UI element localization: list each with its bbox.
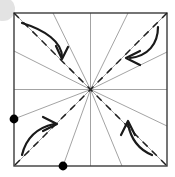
radial-crease-7 — [14, 51, 91, 90]
radial-crease-11 — [63, 90, 91, 167]
top-right-fold-arrow — [126, 27, 158, 65]
fold-diagram-svg — [0, 0, 175, 177]
radial-crease-13 — [91, 90, 123, 167]
bottom-right-fold-arrow — [121, 121, 152, 155]
bottom-edge-marker — [59, 162, 68, 171]
top-left-gray-disc — [0, 0, 15, 21]
radial-crease-3 — [91, 13, 129, 90]
fold-diagram-container — [0, 0, 175, 177]
top-left-fold-arrow-shaft — [22, 23, 62, 57]
bottom-left-fold-arrow — [22, 117, 57, 155]
left-edge-marker — [10, 115, 19, 124]
radial-crease-9 — [14, 90, 91, 120]
